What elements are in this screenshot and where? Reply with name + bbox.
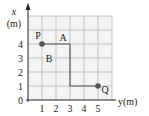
vertical-tick-labels: 01234 bbox=[18, 39, 23, 106]
point-q-dot bbox=[95, 83, 101, 89]
horizontal-tick-label: 2 bbox=[54, 103, 59, 114]
point-label-p: P bbox=[35, 30, 41, 41]
vertical-tick-label: 3 bbox=[18, 53, 23, 64]
point-label-q: Q bbox=[101, 84, 109, 95]
horizontal-tick-label: 3 bbox=[68, 103, 73, 114]
vertical-axis-arrow-icon bbox=[26, 3, 31, 10]
region-label-a: A bbox=[59, 32, 67, 43]
point-p-dot bbox=[39, 41, 45, 47]
vertical-tick-label: 2 bbox=[18, 67, 23, 78]
horizontal-tick-label: 5 bbox=[96, 103, 101, 114]
horizontal-tick-label: 1 bbox=[40, 103, 45, 114]
vertical-axis-unit: (m) bbox=[7, 18, 21, 30]
horizontal-axis-label: y(m) bbox=[118, 96, 137, 108]
vertical-tick-label: 1 bbox=[18, 81, 23, 92]
region-label-b: B bbox=[46, 53, 53, 64]
vertical-axis-label: x bbox=[11, 6, 17, 17]
vertical-tick-label: 4 bbox=[18, 39, 23, 50]
horizontal-tick-label: 4 bbox=[82, 103, 87, 114]
coordinate-diagram: x (m) y(m) 01234 12345 AB PQ bbox=[0, 0, 149, 116]
horizontal-tick-labels: 12345 bbox=[40, 103, 101, 114]
vertical-tick-label: 0 bbox=[18, 95, 23, 106]
